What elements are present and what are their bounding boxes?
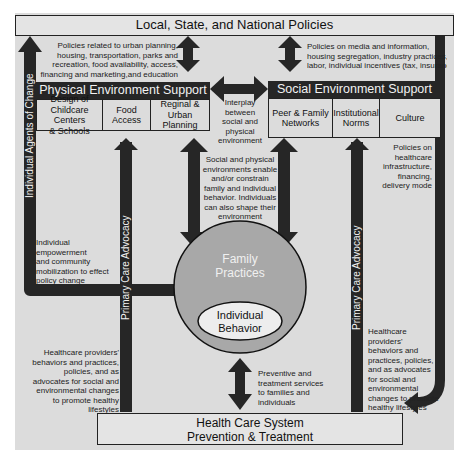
services-note: Preventive andtreatment servicesto famil…	[258, 369, 338, 407]
health-care-system-box: Health Care System Prevention & Treatmen…	[97, 413, 403, 445]
advocacy-left-label: Primary Care Advocacy	[120, 216, 131, 320]
media-policy-note: Policies on media and information, housi…	[307, 42, 447, 71]
social-env-header: Social Environment Support	[268, 81, 441, 98]
urban-policy-note: Policies related to urban planning, hous…	[30, 41, 178, 79]
social-cell-peer-family: Peer & FamilyNetworks	[268, 98, 333, 138]
physical-cell-urban-planning: Reginal &UrbanPlanning	[150, 99, 210, 131]
empowerment-note: Individualempowermentand communitymobili…	[36, 238, 121, 286]
social-cell-institutional-norms: InstitutionalNorms	[332, 98, 380, 138]
family-practices-label: FamilyPractices	[190, 252, 290, 280]
advocacy-right-label: Primary Care Advocacy	[351, 226, 362, 330]
providers-note-right: Healthcareproviders'behaviors andpractic…	[368, 327, 448, 413]
interplay-note: Interplaybetweensocial andphysicalenviro…	[212, 98, 268, 146]
individual-behavior-label: IndividualBehavior	[200, 309, 280, 334]
social-cell-culture: Culture	[379, 98, 441, 138]
healthcare-policy-note: Policies onhealthcareinfrastructure,fina…	[370, 143, 432, 191]
providers-note-left: Healthcare providers'behaviors and pract…	[22, 348, 119, 415]
physical-cell-childcare: Design ofChildcareCenters& Schools	[36, 99, 103, 131]
policies-title: Local, State, and National Policies	[136, 17, 333, 32]
enable-constrain-note: Social and physicalenvironments enablean…	[200, 155, 280, 222]
agents-of-change-label: Individual Agents of Change	[24, 73, 35, 198]
policies-box: Local, State, and National Policies	[15, 15, 454, 36]
physical-cell-food-access: FoodAccess	[102, 99, 151, 131]
